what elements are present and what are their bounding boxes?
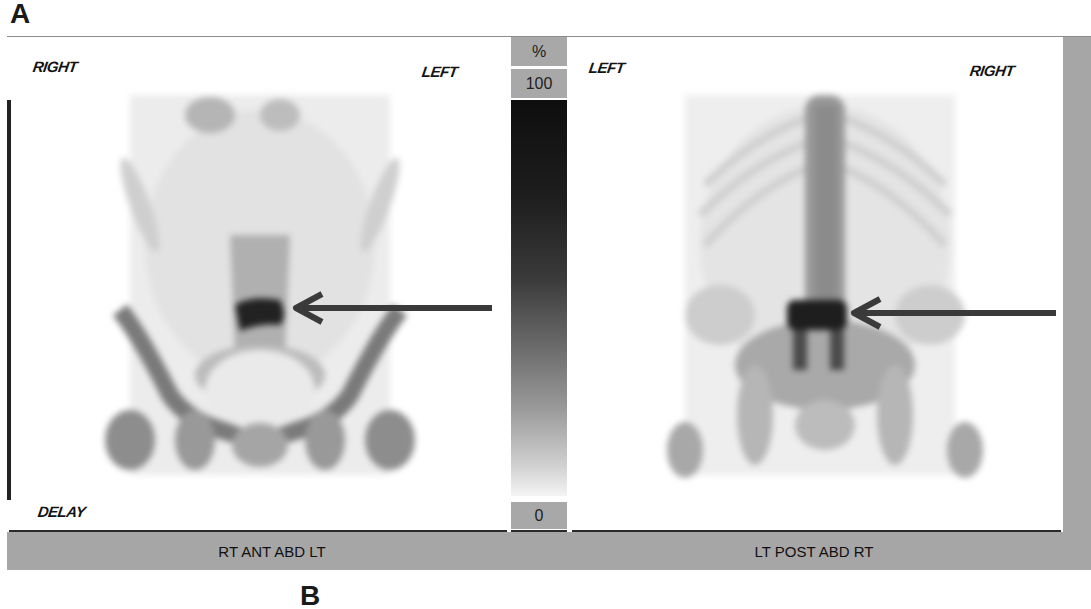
arrow-anterior-lesion: [290, 290, 495, 326]
orientation-label-left: LEFT: [588, 59, 626, 76]
colorbar-unit: %: [511, 37, 567, 66]
posterior-bone-scan-image: [665, 95, 985, 480]
next-figure-label: B: [300, 582, 320, 609]
caption-posterior-text: LT POST ABD RT: [755, 543, 874, 560]
caption-anterior: RT ANT ABD LT: [7, 532, 537, 570]
orientation-label-left: LEFT: [421, 63, 459, 80]
figure-label: A: [10, 0, 30, 30]
orientation-label-right: RIGHT: [969, 62, 1016, 79]
panel-edge: [7, 100, 11, 500]
colorbar-max: 100: [511, 69, 567, 98]
right-gutter: [1063, 37, 1091, 570]
colorbar-min: 0: [511, 502, 567, 529]
anterior-bone-scan-image: [100, 95, 420, 480]
delay-tag: DELAY: [37, 503, 87, 520]
caption-posterior: LT POST ABD RT: [537, 532, 1091, 570]
arrow-posterior-lesion: [848, 295, 1058, 331]
orientation-label-right: RIGHT: [32, 58, 79, 75]
caption-anterior-text: RT ANT ABD LT: [218, 543, 325, 560]
intensity-colorbar: [511, 100, 567, 496]
